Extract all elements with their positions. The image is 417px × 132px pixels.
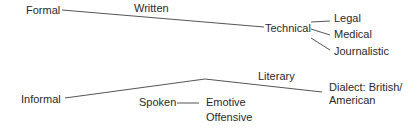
node-technical: Technical: [265, 22, 311, 35]
node-spoken: Spoken: [139, 96, 176, 109]
node-informal: Informal: [21, 93, 61, 106]
node-emotive: Emotive: [206, 96, 246, 109]
node-medical: Medical: [334, 28, 372, 41]
label-written: Written: [134, 2, 169, 15]
node-legal: Legal: [334, 12, 361, 25]
line-technical-journalistic: [311, 38, 330, 50]
line-technical-medical: [311, 29, 330, 35]
label-literary: Literary: [258, 70, 295, 83]
node-journalistic: Journalistic: [334, 45, 389, 58]
dialect-line-1: Dialect: British/: [329, 81, 402, 94]
node-formal: Formal: [26, 4, 60, 17]
line-technical-legal: [311, 21, 330, 22]
node-dialect: Dialect: British/ American: [329, 81, 402, 107]
dialect-line-2: American: [329, 94, 402, 107]
node-offensive: Offensive: [206, 111, 252, 124]
